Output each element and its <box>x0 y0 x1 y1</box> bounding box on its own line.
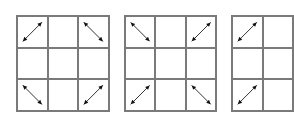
grid-cell <box>186 48 216 80</box>
grid-cell <box>263 79 294 111</box>
double-arrow-diagonal-down-right-icon <box>187 80 215 110</box>
grid-1 <box>16 15 110 112</box>
grid-cell <box>186 16 216 48</box>
grid-cell <box>232 48 263 80</box>
double-arrow-diagonal-down-right-icon <box>18 80 47 110</box>
grid-cell <box>48 79 79 111</box>
grid-cell <box>232 16 263 48</box>
double-arrow-diagonal-down-right-icon <box>79 17 108 47</box>
grid-cell <box>17 48 48 80</box>
grid-cell <box>186 79 216 111</box>
grid-cell <box>232 79 263 111</box>
grid-cell <box>125 16 155 48</box>
double-arrow-diagonal-up-right-icon <box>233 80 262 110</box>
grid-cell <box>125 79 155 111</box>
double-arrow-diagonal-up-right-icon <box>79 80 108 110</box>
grid-cell <box>17 79 48 111</box>
grid-cell <box>78 48 109 80</box>
double-arrow-diagonal-up-right-icon <box>233 17 262 47</box>
double-arrow-diagonal-up-right-icon <box>126 80 154 110</box>
grid-cell <box>48 16 79 48</box>
grid-cell <box>78 16 109 48</box>
grid-cell <box>155 79 185 111</box>
double-arrow-diagonal-up-right-icon <box>187 17 215 47</box>
grid-cell <box>78 79 109 111</box>
grid-cell <box>263 48 294 80</box>
grid-3 <box>231 15 294 112</box>
grid-cell <box>155 16 185 48</box>
double-arrow-diagonal-down-right-icon <box>126 17 154 47</box>
double-arrow-diagonal-up-right-icon <box>18 17 47 47</box>
grid-cell <box>263 16 294 48</box>
grid-2 <box>124 15 217 112</box>
grid-cell <box>17 16 48 48</box>
grid-cell <box>155 48 185 80</box>
grid-cell <box>125 48 155 80</box>
grid-cell <box>48 48 79 80</box>
